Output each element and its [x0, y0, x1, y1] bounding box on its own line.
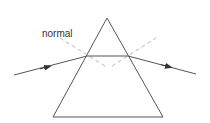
normal-line-left — [60, 38, 105, 66]
incident-ray — [14, 56, 87, 75]
normal-label: normal — [42, 28, 73, 39]
prism-refraction-diagram: normal — [0, 0, 210, 123]
emergent-ray-arrow-icon — [161, 65, 169, 67]
